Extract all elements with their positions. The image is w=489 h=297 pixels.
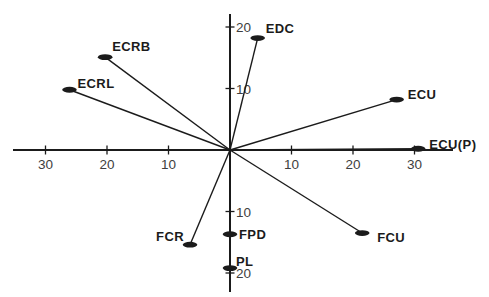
data-marker-ECRB <box>98 54 113 60</box>
muscle-label-FCU: FCU <box>377 230 405 245</box>
data-marker-ECU <box>389 97 404 103</box>
muscle-label-PL: PL <box>236 254 253 269</box>
x-tick-label: 10 <box>161 157 176 172</box>
x-tick-label: 30 <box>38 157 53 172</box>
moment-arm-chart: 30201010203020101020ECRBECRLEDCECUECU(P)… <box>0 0 489 297</box>
data-marker-FPD <box>223 231 238 237</box>
x-tick-label: 20 <box>345 157 360 172</box>
x-tick-label: 30 <box>407 157 422 172</box>
y-tick-label: 10 <box>236 205 251 220</box>
muscle-label-FCR: FCR <box>156 229 184 244</box>
vector-line-FCR <box>190 150 230 245</box>
muscle-label-ECU(P): ECU(P) <box>429 137 476 152</box>
muscle-label-ECRB: ECRB <box>112 39 150 54</box>
x-tick-label: 20 <box>99 157 114 172</box>
vector-line-ECU <box>230 100 397 150</box>
x-tick-label: 10 <box>284 157 299 172</box>
muscle-label-ECRL: ECRL <box>77 76 114 91</box>
vector-line-EDC <box>230 38 258 150</box>
data-marker-ECRL <box>62 87 77 93</box>
chart-svg: 30201010203020101020ECRBECRLEDCECUECU(P)… <box>0 0 489 297</box>
vector-line-ECRL <box>69 90 230 150</box>
data-marker-FCR <box>183 242 198 248</box>
y-tick-label: 20 <box>236 20 251 35</box>
muscle-label-ECU: ECU <box>408 87 437 102</box>
muscle-label-FPD: FPD <box>239 227 266 242</box>
data-marker-ECU(P) <box>411 146 426 152</box>
vector-line-ECRB <box>105 57 230 150</box>
data-marker-EDC <box>250 35 265 41</box>
muscle-label-EDC: EDC <box>266 21 295 36</box>
data-marker-FCU <box>355 230 370 236</box>
